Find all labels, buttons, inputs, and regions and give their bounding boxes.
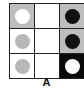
grid-cell-r1-c0 (10, 29, 34, 53)
grid-cell-r0-c1 (35, 4, 59, 28)
grid-cell-r2-c0 (10, 54, 34, 78)
grid-cell-r2-c2 (60, 54, 84, 78)
circle-icon (65, 9, 80, 24)
grid-cell-r0-c2 (60, 4, 84, 28)
circle-icon (65, 59, 80, 74)
circle-icon (15, 9, 30, 24)
grid-cell-r0-c0 (10, 4, 34, 28)
disc-grid (9, 3, 84, 79)
grid-cell-r1-c1 (35, 29, 59, 53)
circle-icon (65, 34, 80, 49)
figure-label: A (0, 76, 84, 88)
circle-icon (15, 34, 30, 49)
grid-cell-r1-c2 (60, 29, 84, 53)
circle-icon (15, 59, 30, 74)
grid-cell-r2-c1 (35, 54, 59, 78)
